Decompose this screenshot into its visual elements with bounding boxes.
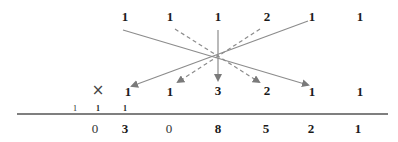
cross-lines (0, 0, 398, 142)
result-digit: 3 (122, 122, 129, 135)
solid-arrow-line-2 (132, 21, 308, 86)
multiplicand-digit: 1 (122, 10, 129, 23)
result-digit: 0 (92, 122, 99, 135)
multiplicand-digit: 1 (215, 10, 222, 23)
multiplier-digit: 2 (264, 84, 271, 97)
result-digit: 0 (166, 122, 173, 135)
multiplicand-digit: 2 (264, 10, 271, 23)
multiplier-digit: 1 (357, 85, 364, 98)
multiplicand-digit: 1 (357, 10, 364, 23)
multiplicand-digit: 1 (309, 10, 316, 23)
carry-digit: 1 (73, 105, 77, 113)
multiplier-digit: 1 (167, 85, 174, 98)
result-digit: 2 (308, 122, 315, 135)
multiplicand-digit: 1 (167, 10, 174, 23)
multiply-sign-icon: × (92, 83, 105, 98)
multiplier-digit: 1 (125, 85, 132, 98)
multiplier-digit: 3 (215, 84, 222, 97)
result-digit: 1 (355, 122, 362, 135)
result-digit: 8 (215, 122, 222, 135)
result-digit: 5 (263, 122, 270, 135)
carry-digit: 1 (123, 105, 127, 113)
dashed-arrow-line-2 (178, 29, 260, 82)
carry-digit: 1 (96, 105, 100, 113)
multiplier-digit: 1 (309, 85, 316, 98)
dashed-arrow-line-1 (175, 29, 259, 82)
cross-multiplication-diagram: 1 1 1 2 1 1 × 1 1 3 2 1 1 1 1 1 0 3 0 8 … (0, 0, 398, 142)
